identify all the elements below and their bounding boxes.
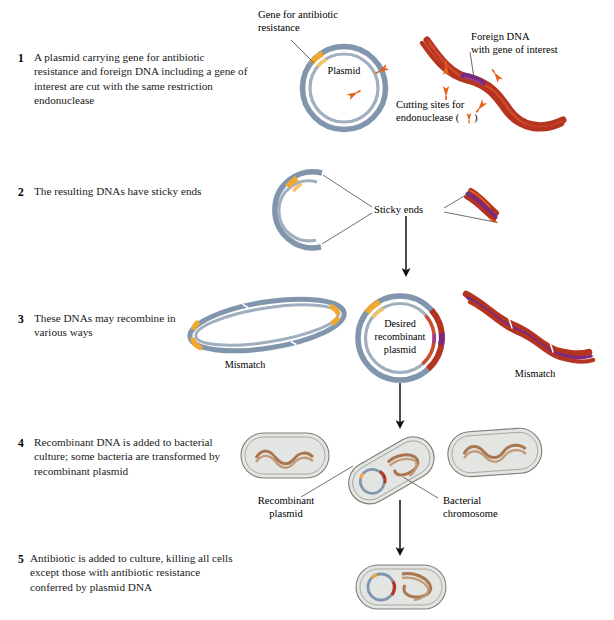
step-5-text-box: Antibiotic is added to culture, killing … xyxy=(30,551,235,611)
mismatch-label-left: Mismatch xyxy=(225,359,266,370)
bacterial-chromosome-label-line1: Bacterial xyxy=(443,495,481,506)
bacterial-chromosome-leader-line xyxy=(403,477,438,498)
step-3-text-box: These DNAs may recombine in various ways xyxy=(34,311,209,355)
step-1-number: 1 xyxy=(18,52,24,64)
foreign-dna-label-line2: with gene of interest xyxy=(471,44,558,55)
desired-plasmid-label-line3: plasmid xyxy=(384,344,416,355)
step-5-number: 5 xyxy=(18,553,24,565)
antibiotic-resistance-gene-segment xyxy=(312,53,323,62)
cut-plasmid-sticky-ends xyxy=(275,172,322,248)
step-4-text: Recombinant DNA is added to bacterial cu… xyxy=(34,435,244,478)
endonuclease-arrow-icon xyxy=(467,113,472,123)
figure-canvas: 1 A plasmid carrying gene for antibiotic… xyxy=(0,0,614,620)
gene-label-line2: resistance xyxy=(258,22,300,33)
bacterium-surviving-transformed xyxy=(356,565,446,609)
step-4-number: 4 xyxy=(18,437,24,449)
gene-label-leader-line xyxy=(291,40,314,63)
plasmid-circle-group xyxy=(303,47,386,130)
gene-label-line1: Gene for antibiotic xyxy=(258,9,338,20)
plasmid-label: Plasmid xyxy=(328,65,361,76)
desired-plasmid-label-line2: recombinant xyxy=(375,331,426,342)
bacterium-right-untransformed xyxy=(446,427,543,478)
bacterium-left-untransformed xyxy=(241,433,329,478)
cutting-sites-label-line2-end: ) xyxy=(474,112,478,124)
cutting-sites-label-line2: endonuclease ( xyxy=(396,112,460,124)
sticky-ends-leader-lines-plasmid xyxy=(322,175,372,244)
bacterial-chromosome-label-line2: chromosome xyxy=(443,508,498,519)
step-2-number: 2 xyxy=(18,186,24,198)
sticky-ends-label: Sticky ends xyxy=(374,204,423,215)
recombinant-gene-of-interest-segment xyxy=(441,333,442,345)
desired-plasmid-label-line1: Desired xyxy=(384,318,416,329)
step-4-text-box: Recombinant DNA is added to bacterial cu… xyxy=(34,435,244,493)
recombinant-plasmid-label-line1: Recombinant xyxy=(258,495,315,506)
recombinant-plasmid-label-line2: plasmid xyxy=(269,508,303,519)
step-2-text-box: The resulting DNAs have sticky ends xyxy=(34,184,264,214)
mismatch-plasmid-left xyxy=(186,290,347,361)
recombinant-dna-figure: 1 A plasmid carrying gene for antibiotic… xyxy=(0,0,614,620)
mismatch-label-right: Mismatch xyxy=(515,368,556,379)
cut-foreign-dna-fragment xyxy=(466,191,497,223)
bacterium-middle-transformed xyxy=(341,429,442,511)
step-1-text: A plasmid carrying gene for antibiotic r… xyxy=(34,50,249,107)
step-3-text: These DNAs may recombine in various ways xyxy=(34,311,209,340)
step-3-number: 3 xyxy=(18,313,24,325)
step-2-text: The resulting DNAs have sticky ends xyxy=(34,184,264,198)
cutting-sites-label-line1: Cutting sites for xyxy=(396,99,465,110)
cutting-sites-label-line2-group: endonuclease ( ) xyxy=(396,112,478,124)
step-1-text-box: A plasmid carrying gene for antibiotic r… xyxy=(34,50,249,122)
mismatch-dna-right xyxy=(466,294,593,362)
foreign-dna-label-line1: Foreign DNA xyxy=(471,31,530,42)
step-5-text: Antibiotic is added to culture, killing … xyxy=(30,551,235,594)
